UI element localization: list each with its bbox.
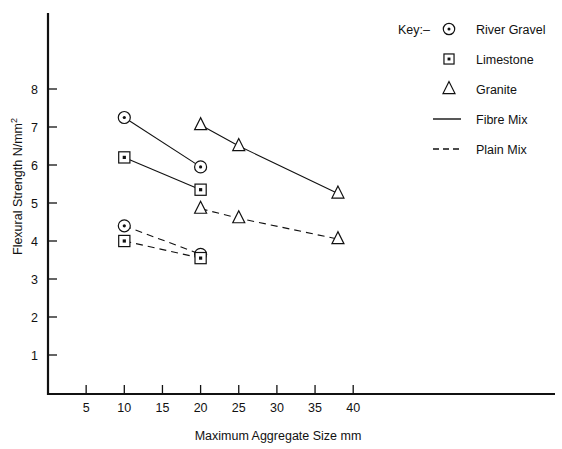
marker-center-dot [123, 156, 126, 159]
x-axis-ticks [86, 385, 353, 394]
x-tick-label: 40 [346, 401, 360, 415]
legend-entries: River GravelLimestoneGraniteFibre MixPla… [433, 23, 545, 157]
legend-label: Fibre Mix [476, 113, 528, 127]
marker-center-dot [199, 257, 202, 260]
series-group [118, 112, 344, 264]
series-6 [195, 201, 344, 243]
triangle-icon [233, 139, 245, 151]
legend-entry-river-gravel[interactable]: River Gravel [443, 23, 545, 37]
axes-group [48, 13, 555, 395]
y-axis-tick-labels: 12345678 [31, 83, 38, 363]
x-tick-label: 20 [194, 401, 208, 415]
series-line-granite-plain-mix [201, 209, 338, 239]
marker-center-dot [199, 188, 202, 191]
triangle-icon [233, 211, 245, 223]
y-tick-label: 8 [31, 83, 38, 97]
y-axis-title: Flexural Strength N/mm2 [9, 118, 25, 255]
y-axis-ticks [48, 89, 57, 355]
series-line-limestone-fibre-mix [124, 157, 200, 189]
flexural-strength-chart: 12345678 510152025303540 Flexural Streng… [0, 0, 562, 449]
legend-entry-limestone[interactable]: Limestone [444, 53, 534, 67]
x-tick-label: 30 [270, 401, 284, 415]
x-tick-label: 15 [155, 401, 169, 415]
y-tick-label: 4 [31, 235, 38, 249]
x-tick-label: 10 [117, 401, 131, 415]
y-tick-label: 1 [31, 349, 38, 363]
chart-legend: Key:– River GravelLimestoneGraniteFibre … [398, 23, 545, 157]
marker-center-dot [123, 116, 126, 119]
legend-entry-plain-mix[interactable]: Plain Mix [433, 143, 527, 157]
x-tick-label: 25 [232, 401, 246, 415]
marker-center-dot [447, 27, 450, 30]
marker-center-dot [448, 58, 451, 61]
legend-label: River Gravel [476, 23, 545, 37]
series-2 [119, 152, 207, 196]
legend-label: Granite [476, 83, 517, 97]
y-tick-label: 7 [31, 121, 38, 135]
series-line-limestone-plain-mix [124, 241, 200, 258]
series-3 [195, 118, 344, 198]
triangle-icon [195, 201, 207, 213]
chart-svg: 12345678 510152025303540 Flexural Streng… [0, 0, 562, 449]
legend-key-label: Key:– [398, 23, 430, 37]
legend-entry-granite[interactable]: Granite [443, 82, 517, 97]
y-tick-label: 2 [31, 311, 38, 325]
marker-center-dot [123, 224, 126, 227]
series-4 [118, 220, 206, 260]
x-tick-label: 35 [308, 401, 322, 415]
triangle-icon [443, 82, 455, 94]
x-axis-tick-labels: 510152025303540 [83, 401, 361, 415]
series-1 [118, 112, 206, 173]
series-line-granite-fibre-mix [201, 125, 338, 193]
y-tick-label: 6 [31, 159, 38, 173]
y-tick-label: 3 [31, 273, 38, 287]
triangle-icon [332, 232, 344, 244]
x-axis-title: Maximum Aggregate Size mm [195, 429, 362, 443]
legend-label: Plain Mix [476, 143, 527, 157]
x-tick-label: 5 [83, 401, 90, 415]
marker-center-dot [199, 165, 202, 168]
legend-label: Limestone [476, 53, 534, 67]
legend-entry-fibre-mix[interactable]: Fibre Mix [433, 113, 528, 127]
triangle-icon [195, 118, 207, 130]
marker-center-dot [123, 239, 126, 242]
y-tick-label: 5 [31, 197, 38, 211]
series-line-river-gravel-fibre-mix [124, 118, 200, 167]
